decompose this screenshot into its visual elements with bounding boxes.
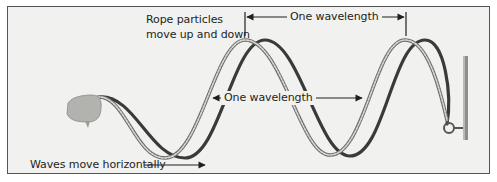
- rope-particles-label: Rope particles move up and down: [146, 12, 250, 42]
- rope-particles-line1: Rope particles: [146, 12, 250, 27]
- ring-attachment: [444, 123, 463, 133]
- waves-direction-label: Waves move horizontally: [30, 158, 166, 172]
- middle-wavelength-label: One wavelength: [221, 91, 316, 105]
- top-wavelength-label: One wavelength: [287, 10, 382, 24]
- rope-particles-line2: move up and down: [146, 27, 250, 42]
- hand-icon: [67, 95, 101, 128]
- wall-post: [463, 56, 468, 140]
